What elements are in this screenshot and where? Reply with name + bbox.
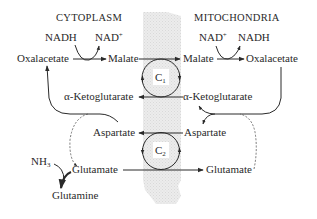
glutamate-to-glutamine-arrow [61,172,71,188]
nh3-label: NH3 [31,155,51,169]
cyto-oxalacetate: Oxalacetate [17,52,69,64]
mito-aspartate: Aspartate [184,126,226,138]
mito-nadh-label: NADH [238,31,270,43]
mito-nad-to-nadh-arc [216,46,240,59]
cyto-nadh-label: NADH [45,31,77,43]
glutamine: Glutamine [52,189,99,201]
malate-aspartate-shuttle-diagram: CYTOPLASM MITOCHONDRIA NADH NAD+ Oxalace… [0,0,317,219]
cyto-nadh-to-nad-arc [75,45,99,60]
mitochondria-heading: MITOCHONDRIA [194,12,280,23]
mito-ketoglutarate: α-Ketoglutarate [183,90,252,102]
mito-oxalacetate: Oxalacetate [246,52,298,64]
cyto-malate: Malate [108,52,139,64]
cyto-ketoglutarate: α-Ketoglutarate [64,90,133,102]
cyto-nad-plus-label: NAD+ [95,31,123,43]
cyto-aspartate: Aspartate [93,126,135,138]
mito-nad-plus-label: NAD+ [199,31,227,43]
cytoplasm-heading: CYTOPLASM [56,12,122,23]
nh3-merge-arc [54,164,64,180]
mito-hook-to-ketoglutarate [199,106,215,114]
mito-glutamate: Glutamate [206,163,252,175]
mito-glutamate-to-ketoglutarate-dashed [240,114,256,169]
cyto-glutamate: Glutamate [72,163,118,175]
cyto-ketoglutarate-to-glutamate-dashed [70,114,88,166]
mito-malate: Malate [183,52,214,64]
mitochondrial-membrane [143,12,181,204]
